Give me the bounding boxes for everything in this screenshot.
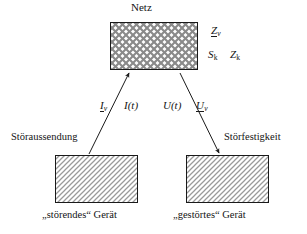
emission-current-subscript: v <box>104 104 107 113</box>
sk-subscript: k <box>214 53 218 62</box>
network-box <box>111 23 198 70</box>
emitter-box <box>56 156 138 203</box>
immunity-side-label: Störfestigkeit <box>224 131 281 142</box>
emission-side-label: Störaussendung <box>11 131 78 142</box>
network-title: Netz <box>131 2 152 14</box>
emc-coupling-diagram: Netz Zv Sk Zk Iv I(t) U(t) Uv Störaussen… <box>0 0 307 234</box>
emission-current-phasor-label: Iv <box>100 100 107 113</box>
diagram-canvas <box>0 0 307 234</box>
short-circuit-impedance-symbol: Zk <box>230 49 240 62</box>
short-circuit-power-symbol: Sk <box>208 49 217 62</box>
victim-caption: „gestörtes“ Gerät <box>173 209 246 220</box>
emission-current-time-label: I(t) <box>124 100 138 112</box>
immunity-voltage-letter: U <box>196 100 204 112</box>
immunity-voltage-phasor-label: Uv <box>196 100 208 113</box>
victim-box <box>187 156 269 203</box>
sk-letter: S <box>208 48 214 60</box>
immunity-voltage-subscript: v <box>204 104 207 113</box>
impedance-subscript: v <box>217 29 220 38</box>
zk-subscript: k <box>236 53 240 62</box>
emitter-caption: „störendes“ Gerät <box>42 209 117 220</box>
immunity-voltage-time-label: U(t) <box>163 100 181 112</box>
emission-arrow <box>89 73 129 154</box>
network-impedance-symbol: Zv <box>211 25 221 38</box>
